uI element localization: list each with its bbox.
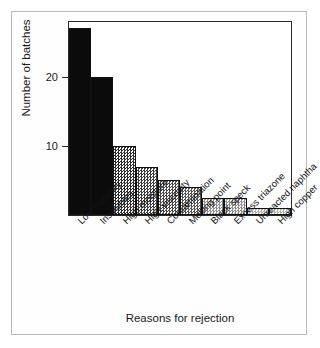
bar: [269, 208, 291, 215]
bar: [202, 198, 224, 215]
y-axis-title: Number of batches: [20, 0, 32, 138]
bar: [224, 198, 246, 215]
y-tick-mark: [62, 77, 68, 78]
bar: [113, 146, 135, 215]
bar: [91, 77, 113, 215]
bar-series: [69, 22, 291, 215]
bar: [158, 180, 180, 215]
figure-root: 1020 Low viscosityInsolublesHigh moistur…: [0, 0, 320, 348]
bar: [136, 167, 158, 215]
y-tick-label: 10: [46, 141, 58, 152]
bar: [69, 28, 91, 215]
bar: [247, 208, 269, 215]
x-axis-title: Reasons for rejection: [68, 312, 292, 324]
y-tick-label: 20: [46, 72, 58, 83]
y-tick-mark: [62, 146, 68, 147]
bar: [180, 187, 202, 215]
